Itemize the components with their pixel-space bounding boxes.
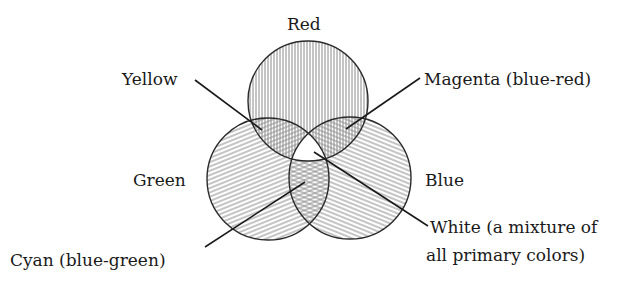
white-label-line1: White (a mixture of [430, 217, 599, 237]
color-venn-diagram: Red Green Blue Yellow Magenta (blue-red)… [0, 0, 640, 283]
green-label: Green [133, 170, 186, 190]
yellow-label: Yellow [121, 69, 178, 89]
magenta-label: Magenta (blue-red) [424, 69, 591, 89]
white-label-line2: all primary colors) [426, 245, 585, 265]
cyan-label: Cyan (blue-green) [10, 250, 166, 270]
blue-label: Blue [425, 170, 464, 190]
red-label: Red [287, 14, 321, 34]
